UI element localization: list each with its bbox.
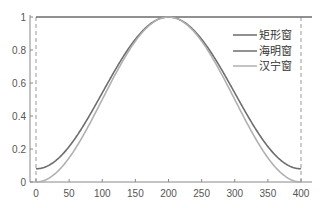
x-tick-label: 350 <box>260 188 277 199</box>
x-tick-label: 250 <box>193 188 210 199</box>
y-tick-label: 0.4 <box>12 111 26 122</box>
y-tick-label: 0.6 <box>12 78 26 89</box>
legend-label-rect: 矩形窗 <box>259 28 292 42</box>
window-function-chart: 00.20.40.60.81050100150200250300350400 矩… <box>0 0 320 208</box>
legend-label-hanning: 汉宁窗 <box>259 59 292 73</box>
x-tick-label: 0 <box>33 188 39 199</box>
x-tick-label: 50 <box>64 188 76 199</box>
x-tick-label: 200 <box>160 188 177 199</box>
y-tick-label: 0.2 <box>12 144 26 155</box>
x-tick-label: 100 <box>94 188 111 199</box>
x-tick-label: 400 <box>293 188 310 199</box>
y-tick-label: 0.8 <box>12 45 26 56</box>
legend-label-hamming: 海明窗 <box>259 44 292 58</box>
y-tick-label: 1 <box>20 12 26 23</box>
y-tick-label: 0 <box>20 177 26 188</box>
x-tick-label: 150 <box>127 188 144 199</box>
legend: 矩形窗 海明窗 汉宁窗 <box>233 28 292 73</box>
x-tick-label: 300 <box>226 188 243 199</box>
